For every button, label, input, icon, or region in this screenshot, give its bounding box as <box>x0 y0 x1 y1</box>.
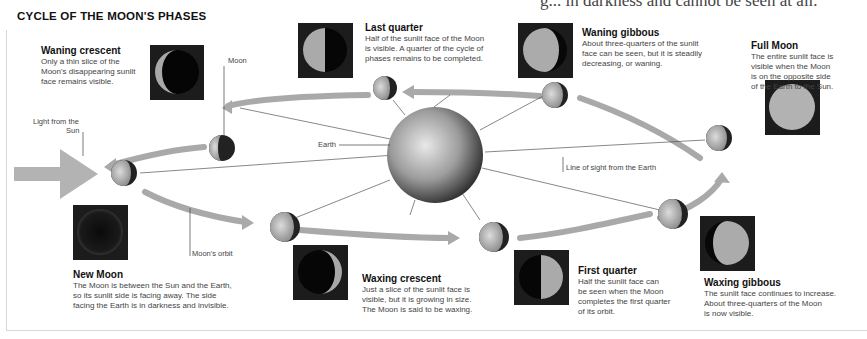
orbit-moon-first-quarter <box>479 222 509 252</box>
caption-line: is visible. A quarter of the cycle of <box>365 44 515 54</box>
caption-waning-crescent: Waning crescent Only a thin slice of the… <box>41 45 146 87</box>
photo-waning-gibbous <box>518 23 573 78</box>
caption-line: Half the sunlit face can <box>578 277 678 287</box>
caption-title: Waning crescent <box>41 45 146 57</box>
sun-light-arrow <box>14 149 98 199</box>
photo-last-quarter <box>298 23 353 78</box>
caption-line: Just a slice of the sunlit face is <box>362 285 497 295</box>
caption-line: About three-quarters of the Moon <box>704 299 854 309</box>
caption-last-quarter: Last quarter Half of the sunlit face of … <box>365 22 515 64</box>
label-moons-orbit: Moon's orbit <box>192 249 233 258</box>
caption-title: Full Moon <box>751 40 851 52</box>
label-moon: Moon <box>228 56 247 65</box>
caption-line: decreasing, or waning. <box>582 59 722 69</box>
label-earth: Earth <box>318 140 336 149</box>
caption-line: of the Earth to the Sun. <box>751 82 851 92</box>
orbit-moon-new <box>111 160 137 186</box>
caption-first-quarter: First quarter Half the sunlit face can b… <box>578 265 678 317</box>
photo-waxing-gibbous <box>700 216 755 271</box>
caption-line: completes the first quarter <box>578 297 678 307</box>
caption-line: The entire sunlit face is <box>751 52 851 62</box>
caption-waxing-crescent: Waxing crescent Just a slice of the sunl… <box>362 273 497 315</box>
orbit-moon-full <box>706 125 732 151</box>
earth-globe <box>387 107 483 203</box>
caption-line: The Moon is said to be waxing. <box>362 305 497 315</box>
caption-title: First quarter <box>578 265 678 277</box>
caption-line: be seen when the Moon <box>578 287 678 297</box>
caption-new-moon: New Moon The Moon is between the Sun and… <box>73 269 248 311</box>
orbit-moon-waning-crescent <box>209 135 235 161</box>
label-line-of-sight: Line of sight from the Earth <box>566 163 656 172</box>
caption-line: visible, but it is growing in size. <box>362 295 497 305</box>
orbit-moon-waxing-crescent <box>270 212 300 242</box>
caption-line: About three-quarters of the sunlit <box>582 39 722 49</box>
orbit-moon-last-quarter <box>373 76 397 100</box>
orbit-moon-waning-gibbous <box>542 82 568 108</box>
caption-line: Moon's disappearing sunlit <box>41 67 146 77</box>
caption-line: phases remains to be completed. <box>365 54 515 64</box>
caption-line: visible when the Moon <box>751 62 851 72</box>
caption-title: Waning gibbous <box>582 27 722 39</box>
label-light-from-sun-1: Light from the <box>33 117 79 126</box>
caption-line: The sunlit face continues to increase. <box>704 289 854 299</box>
caption-line: Half of the sunlit face of the Moon <box>365 34 515 44</box>
orbit-moon-waxing-gibbous <box>658 199 688 229</box>
photo-first-quarter <box>514 250 569 305</box>
caption-title: Last quarter <box>365 22 515 34</box>
caption-waning-gibbous: Waning gibbous About three-quarters of t… <box>582 27 722 69</box>
label-light-from-sun-2: Sun <box>66 126 79 135</box>
caption-line: of its orbit. <box>578 307 678 317</box>
photo-new-moon <box>73 205 128 260</box>
caption-title: Waxing crescent <box>362 273 497 285</box>
caption-line: face remains visible. <box>41 77 146 87</box>
caption-line: facing the Earth is in darkness and invi… <box>73 301 248 311</box>
caption-line: so its sunlit side is facing away. The s… <box>73 291 248 301</box>
photo-waning-crescent <box>150 45 204 100</box>
caption-line: is on the opposite side <box>751 72 851 82</box>
photo-waxing-crescent <box>293 245 348 300</box>
caption-title: Waxing gibbous <box>704 277 854 289</box>
caption-title: New Moon <box>73 269 248 281</box>
caption-waxing-gibbous: Waxing gibbous The sunlit face continues… <box>704 277 854 319</box>
caption-line: is now visible. <box>704 309 854 319</box>
caption-full-moon: Full Moon The entire sunlit face is visi… <box>751 40 851 92</box>
caption-line: The Moon is between the Sun and the Eart… <box>73 281 248 291</box>
caption-line: Only a thin slice of the <box>41 57 146 67</box>
caption-line: face can be seen, but it is steadily <box>582 49 722 59</box>
